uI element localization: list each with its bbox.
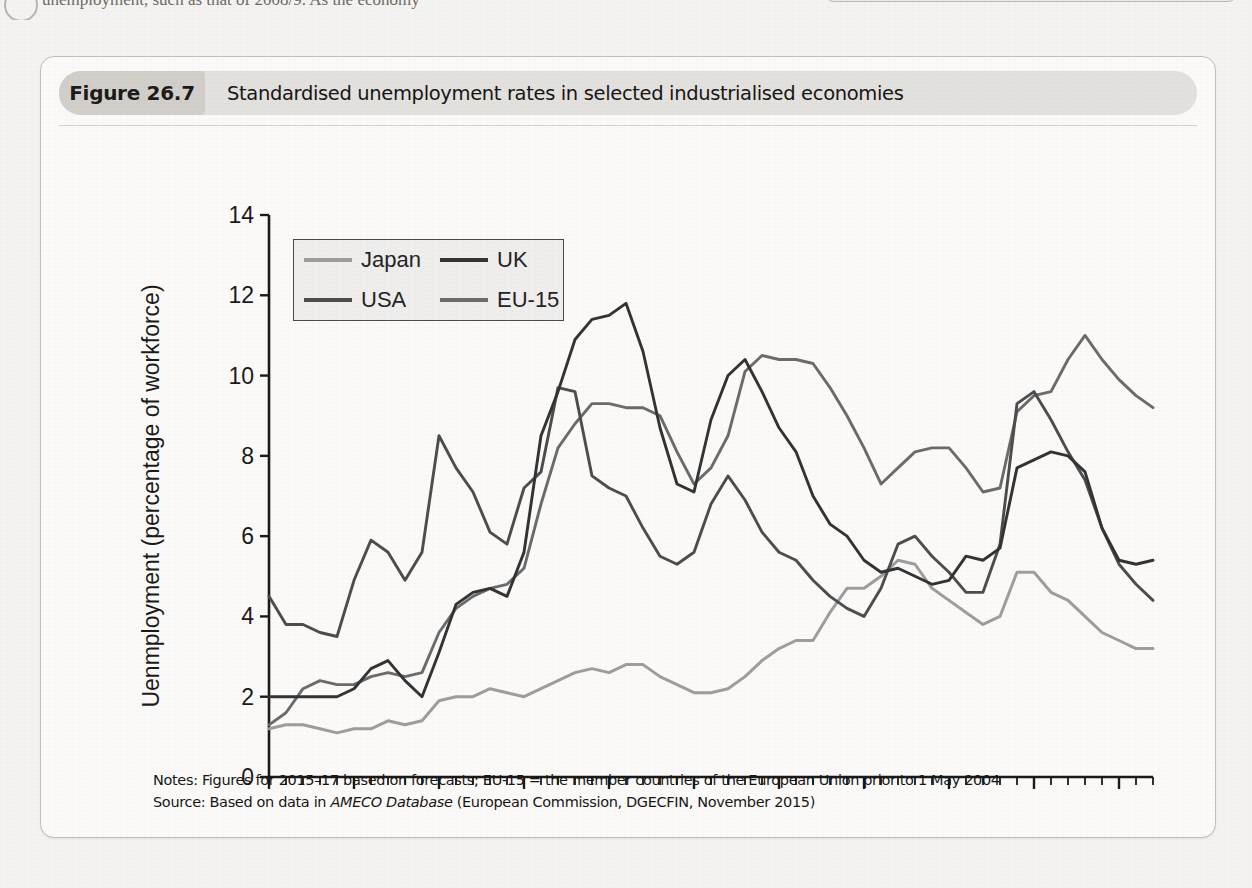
series-line-eu-15 [269,335,1153,724]
legend-label: Japan [361,247,421,273]
series-layer [269,303,1153,733]
legend-item-uk: UK [430,247,563,273]
figure-notes: Notes: Figures for 2015–17 based on fore… [153,769,1193,814]
y-axis-title: Uenmployment (percentage of workforce) [138,284,164,707]
legend-swatch-icon [440,298,488,302]
source-suffix: (European Commission, DGECFIN, November … [452,794,815,810]
bleed-box [824,0,1238,2]
legend-swatch-icon [304,258,352,262]
series-line-japan [269,560,1153,733]
legend-swatch-icon [440,258,488,262]
notes-line: Notes: Figures for 2015–17 based on fore… [153,769,1193,791]
y-tick-label: 12 [228,282,254,308]
figure-header: Figure 26.7 Standardised unemployment ra… [59,71,1197,115]
series-line-uk [269,303,1153,696]
legend-label: USA [361,287,406,313]
legend-swatch-icon [304,298,352,302]
figure-number-badge: Figure 26.7 [59,71,205,115]
y-tick-label: 14 [228,202,254,228]
legend-item-eu-15: EU-15 [430,287,563,313]
source-prefix: Source: Based on data in [153,794,330,810]
legend-item-japan: Japan [294,247,430,273]
chart-legend: JapanUKUSAEU-15 [293,239,564,321]
legend-item-usa: USA [294,287,430,313]
y-tick-label: 2 [241,684,254,710]
unemployment-line-chart: 0246810121419651970197519801985199019952… [41,133,1215,793]
bleed-text: unemployment, such as that of 2008/9. As… [42,0,420,10]
source-database-name: AMECO Database [330,794,452,810]
plot-area: 0246810121419651970197519801985199019952… [41,133,1215,793]
source-line: Source: Based on data in AMECO Database … [153,791,1193,813]
y-tick-label: 8 [241,443,254,469]
page-bleed-region: unemployment, such as that of 2008/9. As… [0,0,1252,20]
legend-label: EU-15 [497,287,559,313]
header-divider [59,125,1197,126]
bleed-bullet-icon [4,0,38,20]
y-tick-label: 4 [241,603,254,629]
figure-panel: Figure 26.7 Standardised unemployment ra… [40,56,1216,838]
y-tick-label: 6 [241,523,254,549]
figure-title: Standardised unemployment rates in selec… [205,82,903,105]
y-tick-label: 10 [228,363,254,389]
legend-label: UK [497,247,528,273]
